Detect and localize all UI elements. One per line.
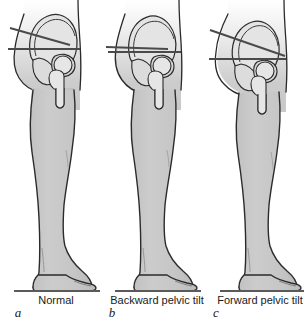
panel-a-caption: Normal [38, 294, 73, 306]
panel-c-caption: Forward pelvic tilt [217, 294, 303, 306]
panel-b-femur-shaft [155, 89, 163, 109]
panel-c-letter: c [213, 305, 219, 319]
panel-a-femur-shaft [56, 88, 64, 108]
figure-canvas: Normal a Backward pelvic tilt [0, 0, 306, 319]
pelvic-tilt-figure: Normal a Backward pelvic tilt [0, 0, 306, 319]
panel-b-letter: b [109, 305, 116, 319]
panel-c-femur-shaft [258, 94, 266, 114]
panel-b-caption: Backward pelvic tilt [110, 294, 204, 306]
panel-a-letter: a [15, 305, 22, 319]
